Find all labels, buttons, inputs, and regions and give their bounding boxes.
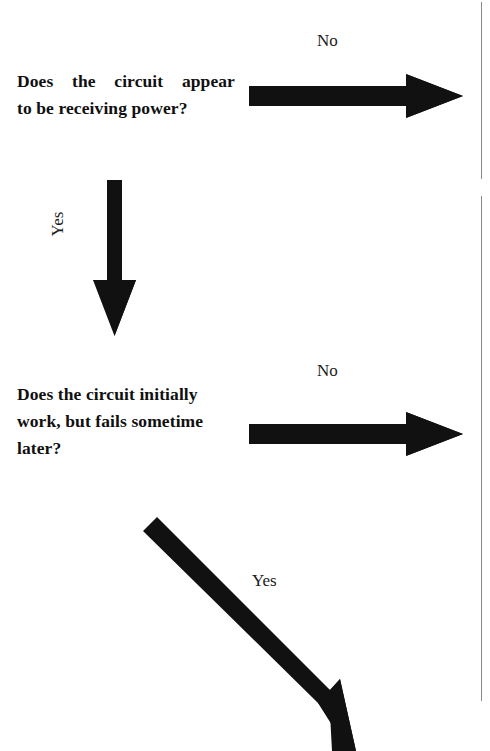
question-node-1: Does the circuit appear to be receiving … (17, 68, 235, 122)
question-node-2-line-1: Does the circuit initially (17, 381, 239, 408)
question-node-2: Does the circuit initially work, but fai… (17, 381, 239, 462)
arrow-down-icon-q1-yes (93, 180, 136, 336)
arrow-right-icon-q2-no (249, 412, 463, 456)
edge-label-q2-yes: Yes (252, 571, 277, 591)
edge-label-q1-yes: Yes (48, 212, 68, 237)
question-node-2-line-3: later? (17, 435, 239, 462)
flowchart-page: Does the circuit appear to be receiving … (0, 0, 490, 751)
question-node-1-line-1: Does the circuit appear (17, 68, 235, 95)
question-node-2-line-2: work, but fails sometime (17, 408, 239, 435)
edge-label-q1-no: No (317, 31, 338, 51)
vertical-rule-bottom (481, 196, 482, 701)
edge-label-q2-no: No (317, 361, 338, 381)
arrow-right-icon-q1-no (249, 74, 463, 118)
vertical-rule-top (481, 2, 482, 179)
question-node-1-line-2: to be receiving power? (17, 95, 235, 122)
arrow-diagonal-icon-q2-yes (143, 517, 356, 751)
